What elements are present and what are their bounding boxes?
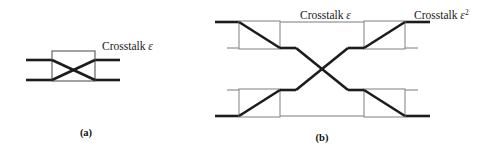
panel-b-caption: (b) (316, 132, 329, 144)
crosstalk-label-b-second-order: Crosstalk ε2 (414, 8, 469, 21)
crosstalk-label-b-second-order-superscript: 2 (465, 8, 469, 17)
crosstalk-label-a-text: Crosstalk (102, 40, 146, 52)
figure-container: Crosstalk ε (a) (0, 0, 492, 160)
crosstalk-label-a-symbol: ε (148, 40, 153, 52)
crosstalk-label-a: Crosstalk ε (102, 40, 153, 52)
crosstalk-label-b-first-order-text: Crosstalk (300, 9, 344, 21)
panel-b-diagonal-bottom-left (239, 90, 280, 116)
crosstalk-label-b-second-order-text: Crosstalk (414, 9, 458, 21)
panel-a-group: Crosstalk ε (a) (26, 40, 153, 139)
panel-a-caption: (a) (80, 127, 93, 139)
crosstalk-label-b-first-order: Crosstalk ε (300, 9, 351, 21)
panel-b-group: Crosstalk ε Crosstalk ε2 (b) (215, 8, 469, 144)
panel-b-diagonal-top-right (364, 22, 405, 48)
panel-b-diagonal-top-left (239, 22, 280, 48)
panel-b-diagonal-bottom-right (364, 90, 405, 116)
crosstalk-label-b-first-order-symbol: ε (346, 9, 351, 21)
crosstalk-figure-svg: Crosstalk ε (a) (0, 0, 492, 160)
